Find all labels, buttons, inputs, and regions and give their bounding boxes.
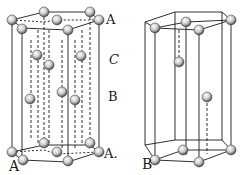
figure-b-caption: B	[142, 157, 152, 171]
layer-label-c: C	[109, 53, 119, 66]
figure-a-hcp-cell	[12, 12, 99, 162]
figure-a-caption: A	[9, 159, 19, 173]
layer-label-b: B	[108, 90, 118, 103]
figure-b-hex-cell	[145, 12, 231, 162]
layer-label-bottom-a: A.	[104, 147, 118, 160]
figure-b-atoms	[150, 15, 236, 167]
layer-label-top-a: A	[106, 13, 115, 26]
crystal-diagram	[0, 0, 243, 175]
